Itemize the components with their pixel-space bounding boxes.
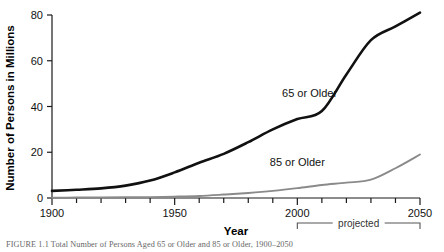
y-tick-label: 0: [37, 192, 43, 204]
series-line-1: [52, 13, 420, 191]
y-tick-label: 20: [31, 146, 43, 158]
series-label-1: 65 or Older: [282, 87, 337, 99]
series-line-2: [52, 155, 420, 198]
y-tick-labels: 020406080: [31, 9, 43, 204]
x-axis-title: Year: [224, 225, 249, 237]
x-tick-label: 2000: [285, 207, 309, 219]
population-line-chart: Number of Persons in Millions 020406080 …: [0, 0, 444, 240]
chart-series-layer: [52, 13, 420, 198]
y-axis-title: Number of Persons in Millions: [4, 25, 16, 191]
x-tick-label: 2050: [408, 207, 432, 219]
x-tick-label: 1950: [162, 207, 186, 219]
series-label-2: 85 or Older: [270, 156, 325, 168]
y-tick-label: 40: [31, 101, 43, 113]
chart-figure: Number of Persons in Millions 020406080 …: [0, 0, 444, 252]
projected-label: projected: [338, 218, 379, 229]
y-tick-label: 60: [31, 55, 43, 67]
y-tick-label: 80: [31, 9, 43, 21]
projected-bracket-group: projected: [297, 218, 420, 230]
chart-axes: [47, 15, 420, 205]
x-tick-label: 1900: [40, 207, 64, 219]
figure-caption: FIGURE 1.1 Total Number of Persons Aged …: [6, 240, 438, 249]
series-annotations: 65 or Older85 or Older: [270, 87, 338, 168]
